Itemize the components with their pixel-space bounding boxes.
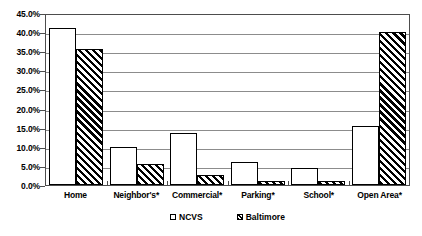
x-axis-category-labels: HomeNeighbor's*Commercial*Parking*School… (45, 190, 410, 200)
y-axis-tick-mark (40, 186, 45, 187)
bar-group (228, 15, 289, 185)
bar-baltimore (197, 175, 224, 185)
bar-group (349, 15, 410, 185)
legend-label: Baltimore (246, 212, 285, 222)
plot-area (45, 14, 410, 186)
y-axis-tick-label: 0.0% (0, 182, 40, 190)
chart-legend: NCVSBaltimore (45, 212, 410, 222)
bar-baltimore (258, 181, 285, 185)
x-axis-label: Home (45, 190, 106, 200)
y-axis-tick-label: 5.0% (0, 163, 40, 171)
y-axis-tick-label: 20.0% (0, 106, 40, 114)
legend-swatch-icon (170, 214, 176, 220)
x-axis-label: Open Area* (349, 190, 410, 200)
bar-ncvs (352, 126, 379, 185)
y-axis-tick-label: 25.0% (0, 86, 40, 94)
bar-ncvs (49, 28, 76, 185)
legend-label: NCVS (179, 212, 203, 222)
y-axis-tick-label: 10.0% (0, 144, 40, 152)
bar-baltimore (76, 49, 103, 185)
bar-baltimore (137, 164, 164, 185)
bar-ncvs (170, 133, 197, 185)
bar-group (167, 15, 228, 185)
bar-ncvs (110, 147, 137, 185)
bar-ncvs (231, 162, 258, 185)
bar-group (107, 15, 168, 185)
bar-baltimore (379, 32, 406, 185)
y-axis-tick-label: 35.0% (0, 48, 40, 56)
x-axis-label: School* (288, 190, 349, 200)
x-axis-label: Parking* (227, 190, 288, 200)
y-axis-tick-label: 15.0% (0, 125, 40, 133)
x-axis-label: Neighbor's* (106, 190, 167, 200)
bar-group (288, 15, 349, 185)
legend-swatch-icon (237, 214, 243, 220)
bar-groups (46, 15, 409, 185)
legend-item-baltimore[interactable]: Baltimore (237, 212, 285, 222)
legend-item-ncvs[interactable]: NCVS (170, 212, 203, 222)
y-axis-tick-label: 30.0% (0, 67, 40, 75)
x-axis-label: Commercial* (167, 190, 228, 200)
bar-group (46, 15, 107, 185)
bar-ncvs (291, 168, 318, 185)
y-axis-tick-label: 45.0% (0, 10, 40, 18)
bar-baltimore (318, 181, 345, 185)
y-axis-tick-label: 40.0% (0, 29, 40, 37)
bar-chart: 45.0%40.0%35.0%30.0%25.0%20.0%15.0%10.0%… (0, 0, 422, 236)
